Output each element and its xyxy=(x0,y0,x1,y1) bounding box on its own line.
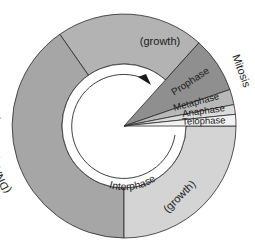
cell-cycle-diagram: (growth) (DNA synthesis) (growth) Propha… xyxy=(0,0,255,251)
label-telophase: Telophase xyxy=(182,114,226,127)
label-growth-top: (growth) xyxy=(140,35,180,47)
label-dna-synthesis: (DNA synthesis) xyxy=(0,112,13,195)
label-mitosis: Mitosis xyxy=(230,52,253,89)
